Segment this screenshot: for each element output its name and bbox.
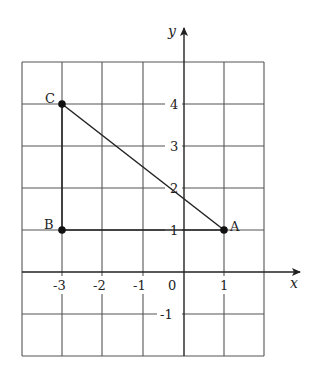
x-axis-label: x xyxy=(290,275,298,291)
x-tick-neg2: -2 xyxy=(93,278,106,293)
coordinate-plane: A B C 4 3 2 1 -1 -3 -2 -1 0 1 x y xyxy=(0,0,325,375)
y-tick-2: 2 xyxy=(170,181,178,196)
y-tick-3: 3 xyxy=(170,139,178,154)
x-tick-1: 1 xyxy=(220,278,228,293)
y-tick-1: 1 xyxy=(170,223,178,238)
label-b: B xyxy=(44,217,54,232)
x-tick-0: 0 xyxy=(168,278,176,293)
grid xyxy=(22,62,264,356)
x-tick-neg1: -1 xyxy=(133,278,146,293)
point-b xyxy=(58,226,66,234)
point-a xyxy=(220,226,228,234)
label-c: C xyxy=(45,91,55,106)
y-axis-label: y xyxy=(167,23,177,39)
point-c xyxy=(58,100,66,108)
label-a: A xyxy=(229,219,240,234)
x-tick-neg3: -3 xyxy=(53,278,66,293)
y-tick-neg1: -1 xyxy=(160,307,173,322)
y-tick-4: 4 xyxy=(170,97,178,112)
